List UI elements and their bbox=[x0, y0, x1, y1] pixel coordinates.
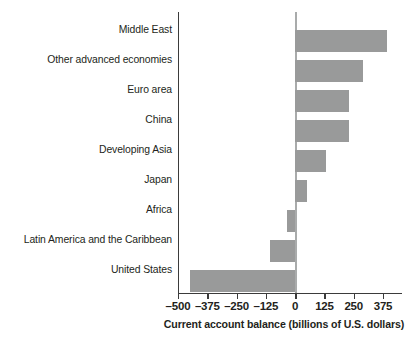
category-axis-labels: Middle East Other advanced economies Eur… bbox=[0, 0, 176, 293]
category-label: Latin America and the Caribbean bbox=[0, 234, 172, 245]
x-tick bbox=[383, 293, 384, 299]
x-tick-label: 375 bbox=[361, 300, 405, 312]
x-tick bbox=[207, 293, 208, 299]
bar-japan bbox=[295, 180, 307, 202]
x-axis: –500 –375 –250 –125 0 125 250 375 Curren… bbox=[178, 293, 410, 349]
bar-middle-east bbox=[295, 30, 386, 52]
category-label: Other advanced economies bbox=[0, 54, 172, 65]
x-axis-title: Current account balance (billions of U.S… bbox=[154, 318, 410, 330]
bar-united-states bbox=[190, 270, 295, 292]
category-label: United States bbox=[0, 264, 172, 275]
x-axis-line bbox=[178, 293, 402, 294]
category-label: Developing Asia bbox=[0, 144, 172, 155]
category-label: Africa bbox=[0, 204, 172, 215]
category-label: Euro area bbox=[0, 84, 172, 95]
x-tick bbox=[266, 293, 267, 299]
x-tick bbox=[237, 293, 238, 299]
y-axis-line bbox=[178, 12, 179, 293]
bar-other-advanced-economies bbox=[295, 60, 363, 82]
x-tick bbox=[324, 293, 325, 299]
category-label: Middle East bbox=[0, 24, 172, 35]
bar-developing-asia bbox=[295, 150, 326, 172]
plot-area bbox=[178, 12, 410, 293]
category-label: China bbox=[0, 114, 172, 125]
x-tick bbox=[354, 293, 355, 299]
bar-euro-area bbox=[295, 90, 349, 112]
current-account-balance-chart: Middle East Other advanced economies Eur… bbox=[0, 0, 410, 349]
x-tick bbox=[295, 293, 296, 299]
bar-africa bbox=[287, 210, 295, 232]
x-tick bbox=[178, 293, 179, 299]
category-label: Japan bbox=[0, 174, 172, 185]
bar-china bbox=[295, 120, 349, 142]
bar-latin-america-and-the-caribbean bbox=[270, 240, 295, 262]
